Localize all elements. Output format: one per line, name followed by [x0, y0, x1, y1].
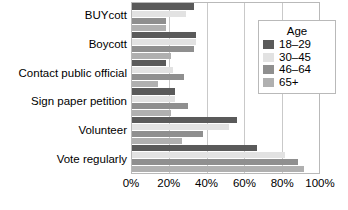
legend-swatch-icon: [263, 40, 274, 49]
grouped-bar-chart: BUYcottBoycottContact public officialSig…: [0, 0, 348, 210]
bar[interactable]: [132, 110, 171, 116]
y-axis-label: Contact public official: [0, 68, 127, 80]
legend-swatch-icon: [263, 78, 274, 87]
bar[interactable]: [132, 117, 237, 123]
bar[interactable]: [132, 145, 257, 151]
bar[interactable]: [132, 3, 194, 9]
bar[interactable]: [132, 103, 188, 109]
bar[interactable]: [132, 46, 194, 52]
bar[interactable]: [132, 124, 229, 130]
bar-row: [132, 145, 319, 152]
y-axis-label: Sign paper petition: [0, 96, 127, 108]
y-axis-label: Vote regularly: [0, 154, 127, 166]
x-axis-tick-label: 80%: [271, 178, 294, 190]
legend-item[interactable]: 65+: [263, 77, 331, 89]
bar-row: [132, 166, 319, 173]
legend-items: 18–2930–4546–6465+: [263, 39, 331, 88]
bar-row: [132, 116, 319, 123]
x-axis-tick-label: 40%: [195, 178, 218, 190]
bar-row: [132, 95, 319, 102]
bar[interactable]: [132, 60, 166, 66]
legend-item[interactable]: 30–45: [263, 52, 331, 64]
bar[interactable]: [132, 25, 166, 31]
bar-group: [132, 145, 319, 173]
x-axis-tick-label: 0%: [123, 178, 140, 190]
y-axis-labels: BUYcottBoycottContact public officialSig…: [0, 2, 127, 174]
legend-swatch-icon: [263, 65, 274, 74]
bar[interactable]: [132, 18, 166, 24]
bar-row: [132, 152, 319, 159]
bar-row: [132, 102, 319, 109]
bar[interactable]: [132, 74, 184, 80]
bar[interactable]: [132, 96, 175, 102]
legend-item[interactable]: 46–64: [263, 64, 331, 76]
x-axis-tick-label: 100%: [305, 178, 334, 190]
legend-item-label: 46–64: [279, 64, 311, 76]
bar[interactable]: [132, 32, 196, 38]
x-axis-tick-label: 20%: [157, 178, 180, 190]
bar[interactable]: [132, 53, 171, 59]
bar-row: [132, 123, 319, 130]
y-axis-label: Volunteer: [0, 125, 127, 137]
bar-row: [132, 130, 319, 137]
bar[interactable]: [132, 88, 175, 94]
legend-item[interactable]: 18–29: [263, 39, 331, 51]
bar[interactable]: [132, 131, 203, 137]
bar[interactable]: [132, 81, 158, 87]
bar-row: [132, 10, 319, 17]
x-axis-labels: 0%20%40%60%80%100%: [131, 178, 320, 196]
bar-row: [132, 159, 319, 166]
legend-item-label: 18–29: [279, 39, 311, 51]
legend-item-label: 65+: [279, 77, 299, 89]
legend-swatch-icon: [263, 53, 274, 62]
bar[interactable]: [132, 39, 196, 45]
y-axis-label: Boycott: [0, 39, 127, 51]
bar[interactable]: [132, 11, 186, 17]
bar[interactable]: [132, 166, 304, 172]
bar[interactable]: [132, 152, 285, 158]
bar[interactable]: [132, 138, 182, 144]
y-axis-label: BUYcott: [0, 10, 127, 22]
bar-row: [132, 138, 319, 145]
bar-group: [132, 116, 319, 144]
bar-row: [132, 109, 319, 116]
x-axis-tick-label: 60%: [233, 178, 256, 190]
legend: Age 18–2930–4546–6465+: [258, 20, 336, 94]
bar-row: [132, 3, 319, 10]
bar[interactable]: [132, 67, 173, 73]
bar[interactable]: [132, 159, 298, 165]
legend-title: Age: [263, 25, 331, 37]
legend-item-label: 30–45: [279, 52, 311, 64]
